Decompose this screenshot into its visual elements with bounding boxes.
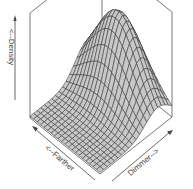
arrow-up-icon xyxy=(13,15,16,21)
density-axis-label: <--Density xyxy=(7,29,16,66)
dimmer-axis-label: Dimmer--> xyxy=(126,146,161,178)
perspective-surface-plot: <--Density <--Farther Dimmer--> xyxy=(0,0,193,189)
density-axis: <--Density xyxy=(7,15,17,100)
